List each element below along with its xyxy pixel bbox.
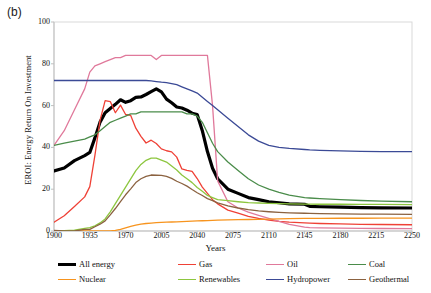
legend-swatch-icon (58, 279, 76, 280)
legend-label: Oil (287, 259, 298, 269)
legend-label: Renewables (199, 274, 240, 284)
plot-frame (54, 22, 412, 231)
legend-item-oil[interactable]: Oil (266, 259, 298, 269)
legend-label: Geothermal (369, 274, 409, 284)
y-tick-label: 60 (24, 101, 50, 110)
legend-label: Coal (369, 259, 385, 269)
x-tick-label: 1900 (34, 231, 74, 240)
legend-item-gas[interactable]: Gas (178, 259, 212, 269)
legend-item-renewables[interactable]: Renewables (178, 274, 240, 284)
panel-label: (b) (7, 5, 22, 19)
legend-item-geothermal[interactable]: Geothermal (348, 274, 409, 284)
y-tick-label: 80 (24, 59, 50, 68)
legend-label: Hydropower (287, 274, 330, 284)
legend-item-all-energy[interactable]: All energy (58, 259, 115, 269)
y-tick-label: 40 (24, 142, 50, 151)
y-axis-ticks: 020406080100 (22, 0, 50, 240)
legend-swatch-icon (348, 264, 366, 265)
x-tick-label: 2180 (320, 231, 360, 240)
x-axis-label: Years (0, 243, 431, 253)
x-tick-label: 2215 (356, 231, 396, 240)
legend-swatch-icon (266, 264, 284, 265)
x-tick-label: 2250 (392, 231, 431, 240)
legend-item-coal[interactable]: Coal (348, 259, 385, 269)
legend-item-nuclear[interactable]: Nuclear (58, 274, 106, 284)
chart-legend: All energyGasOilCoalNuclearRenewablesHyd… (38, 259, 398, 291)
x-tick-label: 2110 (249, 231, 289, 240)
legend-swatch-icon (58, 263, 76, 266)
y-tick-label: 100 (24, 17, 50, 26)
legend-swatch-icon (178, 279, 196, 280)
legend-label: Nuclear (79, 274, 106, 284)
x-tick-label: 2040 (177, 231, 217, 240)
legend-item-hydropower[interactable]: Hydropower (266, 274, 330, 284)
y-tick-label: 20 (24, 184, 50, 193)
x-tick-label: 1935 (70, 231, 110, 240)
figure-panel-b: (b) EROI: Energy Return On Investment 02… (0, 0, 431, 293)
legend-swatch-icon (178, 264, 196, 265)
x-tick-label: 2005 (141, 231, 181, 240)
legend-swatch-icon (266, 279, 284, 280)
x-tick-label: 2145 (285, 231, 325, 240)
legend-label: All energy (79, 259, 115, 269)
legend-label: Gas (199, 259, 212, 269)
x-tick-label: 2075 (213, 231, 253, 240)
legend-swatch-icon (348, 279, 366, 280)
x-tick-label: 1970 (106, 231, 146, 240)
